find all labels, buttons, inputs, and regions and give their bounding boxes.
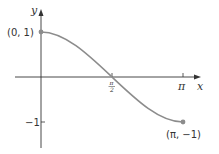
y-axis-arrow-icon: [39, 9, 44, 16]
cosine-graph: y x (0, 1) (π, −1) π 2 π −1: [0, 0, 219, 154]
x-axis-arrow-icon: [194, 75, 201, 80]
neg-one-tick-label: −1: [25, 117, 40, 128]
start-point-marker: [39, 30, 44, 35]
x-axis-label: x: [197, 80, 204, 93]
pi-half-numerator: π: [109, 79, 115, 86]
pi-half-denominator: 2: [109, 86, 114, 93]
y-axis-label: y: [30, 4, 38, 17]
end-point-label: (π, −1): [166, 129, 201, 140]
end-point-marker: [181, 120, 186, 125]
start-point-label: (0, 1): [7, 27, 34, 38]
pi-tick-label: π: [177, 80, 186, 93]
